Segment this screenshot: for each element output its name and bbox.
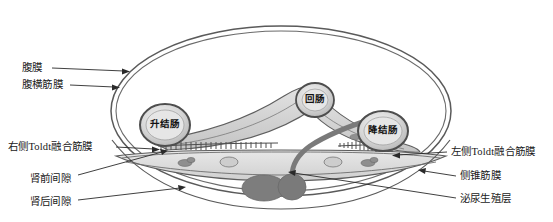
label-peritoneum: 腹膜 [22,63,42,74]
label-urogenital-layer: 泌尿生殖层 [460,194,511,205]
organ-ascending-colon [140,104,190,146]
cross-section-drawing [0,0,553,222]
label-posterior-pararenal-space: 肾后间隙 [30,197,71,208]
label-transversalis-fascia: 腹横筋膜 [22,80,63,91]
label-anterior-pararenal-space: 肾前间隙 [30,174,71,185]
label-right-toldt-fusion-fascia: 右侧Toldt融合筋膜 [8,142,92,153]
organ-descending-colon [358,111,408,151]
anatomical-figure: 升结肠 回肠 降结肠 腹膜 腹横筋膜 右侧Toldt融合筋膜 肾前间隙 肾后间隙… [0,0,553,222]
organ-ileum [296,83,334,117]
label-left-toldt-fusion-fascia: 左侧Toldt融合筋膜 [451,147,535,158]
label-lateroconal-fascia: 侧锥筋膜 [460,171,501,182]
